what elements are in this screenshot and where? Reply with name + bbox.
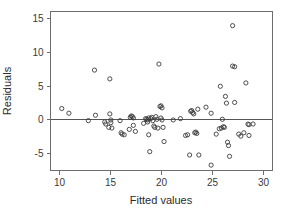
residuals-vs-fitted-scatter-plot: 1015202530 -5051015 Fitted values Residu… (0, 0, 290, 209)
x-axis-title: Fitted values (130, 194, 193, 206)
x-tick-label: 30 (258, 177, 270, 188)
y-tick-label: -5 (35, 148, 44, 159)
y-tick-label: 0 (38, 114, 44, 125)
y-tick-label: 15 (32, 13, 44, 24)
x-tick-label: 10 (54, 177, 66, 188)
plot-background (0, 0, 290, 209)
plot-canvas: 1015202530 -5051015 Fitted values Residu… (0, 0, 290, 209)
x-tick-label: 25 (207, 177, 219, 188)
y-tick-label: 5 (38, 81, 44, 92)
y-tick-label: 10 (32, 47, 44, 58)
x-tick-label: 20 (156, 177, 168, 188)
x-tick-label: 15 (105, 177, 117, 188)
y-axis-title: Residuals (1, 66, 13, 115)
